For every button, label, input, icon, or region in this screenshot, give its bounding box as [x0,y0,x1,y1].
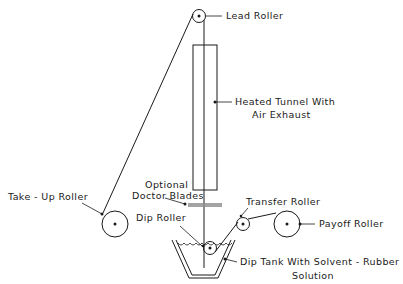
dip-roller-label: Dip Roller [136,212,186,223]
transfer-roller [237,218,250,231]
heated-tunnel-label-line1: Heated Tunnel With [235,96,335,107]
heated-tunnel [193,45,217,190]
dip-roller [204,242,217,255]
dip-tank-label-line1: Dip Tank With Solvent - Rubber [240,256,399,267]
heated-tunnel-label-line2: Air Exhaust [252,109,311,120]
heated-tunnel-leader [214,101,233,104]
take-up-roller [102,211,128,237]
payoff-roller-label: Payoff Roller [319,218,383,229]
take-up-roller-label: Take - Up Roller [7,191,88,202]
dip-coating-diagram: Lead Roller Heated Tunnel With Air Exhau… [0,0,403,284]
doctor-blades [188,204,222,206]
payoff-roller [274,211,300,237]
transfer-roller-label: Transfer Roller [245,196,320,207]
doctor-blades-label-line2: Doctor Blades [132,190,204,201]
take-up-roller-leader [82,203,104,216]
doctor-blades-label-line1: Optional [145,179,188,190]
strip-transfer-to-payoff [248,213,276,219]
payoff-roller-leader [299,223,316,226]
lead-roller-label: Lead Roller [226,10,283,21]
dip-tank-label-line2: Solution [292,270,334,281]
transfer-roller-leader [240,208,248,217]
strip-dip-to-transfer [215,222,238,252]
